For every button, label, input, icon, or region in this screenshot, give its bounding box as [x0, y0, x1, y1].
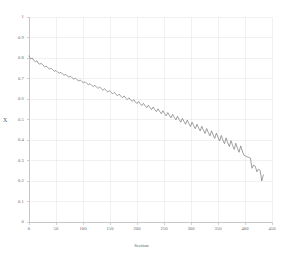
y-tick-label: 0.3 — [8, 158, 24, 163]
x-tick-label: 450 — [262, 226, 282, 231]
y-tick-label: 0.5 — [8, 117, 24, 122]
x-tick-label: 200 — [127, 226, 147, 231]
y-tick-label: 0.9 — [8, 35, 24, 40]
y-tick-label: 0.4 — [8, 137, 24, 142]
y-tick-label: 0.2 — [8, 178, 24, 183]
y-axis-title: X — [3, 117, 7, 123]
x-tick-label: 0 — [19, 226, 39, 231]
y-tick-label: 0.6 — [8, 96, 24, 101]
y-tick-label: 0 — [8, 219, 24, 224]
data-series-line — [29, 56, 263, 181]
gridlines — [29, 17, 272, 222]
x-tick-label: 150 — [100, 226, 120, 231]
y-tick-label: 0.8 — [8, 55, 24, 60]
chart-figure: 00.10.20.30.40.50.60.70.80.91 0501001502… — [0, 0, 283, 262]
x-tick-label: 250 — [154, 226, 174, 231]
x-tick-label: 400 — [235, 226, 255, 231]
tick-marks — [27, 17, 273, 225]
chart-canvas — [0, 0, 283, 262]
y-tick-label: 0.1 — [8, 199, 24, 204]
x-axis-title: Section — [0, 243, 283, 248]
x-tick-label: 100 — [73, 226, 93, 231]
x-tick-label: 350 — [208, 226, 228, 231]
y-tick-label: 1 — [8, 14, 24, 19]
x-tick-label: 50 — [46, 226, 66, 231]
data-series-group — [29, 56, 263, 181]
y-tick-label: 0.7 — [8, 76, 24, 81]
x-tick-label: 300 — [181, 226, 201, 231]
